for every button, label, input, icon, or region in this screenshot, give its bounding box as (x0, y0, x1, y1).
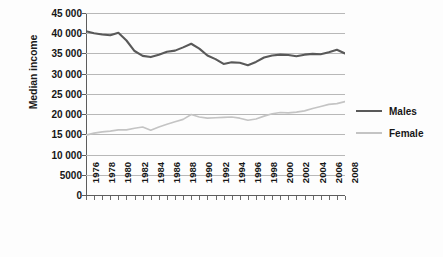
y-axis-tick-labels: 0500010 00015 00020 00025 00030 00035 00… (28, 13, 82, 195)
x-axis-tick-mark (183, 196, 184, 200)
x-axis-tick-mark (199, 196, 200, 200)
x-axis-tick-mark (264, 196, 265, 200)
x-tick-label: 1992 (220, 162, 231, 202)
x-tick-label: 1984 (155, 162, 166, 202)
y-tick-label: 20 000 (28, 109, 82, 120)
x-axis-tick-mark (135, 196, 136, 200)
y-tick-label: 30 000 (28, 68, 82, 79)
x-tick-label: 1990 (203, 162, 214, 202)
x-tick-label: 1996 (252, 162, 263, 202)
chart-page: Median income 0500010 00015 00020 00025 … (0, 0, 443, 257)
y-tick-label: 15 000 (28, 129, 82, 140)
x-axis-tick-mark (86, 196, 87, 200)
y-tick-label: 0 (28, 190, 82, 201)
x-axis-tick-mark (280, 196, 281, 200)
y-tick-label: 25 000 (28, 88, 82, 99)
x-axis-tick-mark (216, 196, 217, 200)
y-tick-label: 5000 (28, 169, 82, 180)
x-tick-label: 2004 (317, 162, 328, 202)
x-axis-tick-mark (345, 196, 346, 200)
x-axis-tick-mark (167, 196, 168, 200)
series-line-males (86, 31, 345, 65)
legend-label-female: Female (389, 128, 423, 139)
x-tick-label: 1980 (122, 162, 133, 202)
x-tick-label: 2000 (284, 162, 295, 202)
y-axis-tick-mark (82, 195, 86, 196)
x-tick-label: 1986 (171, 162, 182, 202)
y-axis-tick-mark (82, 134, 86, 135)
y-tick-label: 35 000 (28, 48, 82, 59)
x-axis-tick-mark (232, 196, 233, 200)
x-axis-tick-mark (102, 196, 103, 200)
x-axis-tick-mark (248, 196, 249, 200)
x-tick-label: 2008 (349, 162, 360, 202)
series-line-female (86, 102, 345, 136)
x-tick-label: 1976 (90, 162, 101, 202)
y-tick-label: 40 000 (28, 28, 82, 39)
y-axis-tick-mark (82, 53, 86, 54)
legend-swatch-males (356, 110, 382, 112)
chart-legend: Males Female (356, 100, 442, 144)
x-tick-label: 2006 (333, 162, 344, 202)
legend-label-males: Males (389, 106, 417, 117)
x-axis-tick-mark (329, 196, 330, 200)
y-axis-tick-mark (82, 74, 86, 75)
y-axis-tick-mark (82, 114, 86, 115)
x-axis-tick-mark (296, 196, 297, 200)
x-tick-label: 1994 (236, 162, 247, 202)
y-axis-tick-mark (82, 33, 86, 34)
x-tick-label: 1982 (139, 162, 150, 202)
y-axis-tick-mark (82, 175, 86, 176)
x-axis-tick-mark (151, 196, 152, 200)
legend-item-female: Female (356, 122, 442, 144)
legend-item-males: Males (356, 100, 442, 122)
y-tick-label: 45 000 (28, 8, 82, 19)
x-axis-tick-labels: 1976197819801982198419861988199019921994… (86, 202, 345, 252)
y-tick-label: 10 000 (28, 149, 82, 160)
x-axis-tick-mark (313, 196, 314, 200)
x-tick-label: 1998 (268, 162, 279, 202)
x-axis-tick-mark (118, 196, 119, 200)
y-axis-tick-mark (82, 13, 86, 14)
y-axis-tick-mark (82, 94, 86, 95)
x-tick-label: 1978 (106, 162, 117, 202)
x-tick-label: 1988 (187, 162, 198, 202)
legend-swatch-female (356, 132, 382, 134)
y-axis-tick-mark (82, 155, 86, 156)
x-tick-label: 2002 (300, 162, 311, 202)
